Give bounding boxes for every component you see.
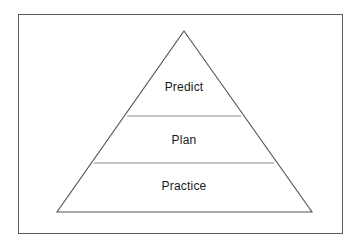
diagram-canvas: Predict Plan Practice xyxy=(0,0,361,249)
tier-label-practice: Practice xyxy=(162,180,207,192)
tier-label-plan: Plan xyxy=(172,134,197,146)
outer-border xyxy=(18,14,343,234)
tier-label-predict: Predict xyxy=(165,81,204,93)
